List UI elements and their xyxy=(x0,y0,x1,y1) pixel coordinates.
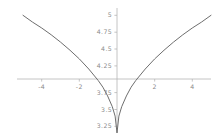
plot-background xyxy=(0,0,219,140)
x-tick-label: -2 xyxy=(76,83,83,90)
x-tick-label: -4 xyxy=(38,83,45,90)
x-tick-label: 4 xyxy=(190,83,194,90)
y-tick-label: 4.5 xyxy=(101,45,112,52)
plot-canvas: -4 -2 2 4 3.25 3.5 3.75 4.25 4.5 4.75 5 xyxy=(0,0,219,140)
x-tick-label: 2 xyxy=(153,83,157,90)
y-tick-label: 4.25 xyxy=(97,62,112,69)
y-tick-label: 4.75 xyxy=(97,28,112,35)
y-tick-label: 5 xyxy=(108,11,112,18)
y-tick-label: 3.25 xyxy=(97,122,112,129)
y-tick-label: 3.5 xyxy=(101,106,112,113)
plot-figure: -4 -2 2 4 3.25 3.5 3.75 4.25 4.5 4.75 5 xyxy=(0,0,219,140)
